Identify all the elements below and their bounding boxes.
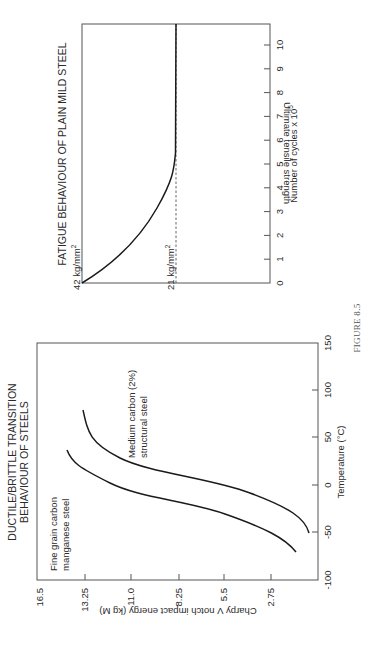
svg-text:4: 4	[274, 185, 285, 190]
y-tick-5-5: 5.5	[218, 588, 229, 601]
x-tick-neg100: -100	[322, 570, 333, 589]
y-tick-13-25: 13.25	[79, 588, 90, 612]
svg-text:structural steel: structural steel	[138, 396, 149, 458]
y-tick-16-5: 16.5	[34, 588, 45, 607]
svg-text:0: 0	[274, 280, 285, 285]
x-tick-0: 0	[322, 482, 333, 487]
svg-text:10: 10	[274, 40, 285, 51]
series-label-fine-grain: Fine grain carbon manganese steel	[48, 497, 71, 571]
x-axis-label: Temperature (°C)	[335, 426, 346, 499]
series-label-medium-carbon: Medium carbon (2%) structural steel	[126, 370, 149, 458]
x-axis-tick-labels: 0 1 2 3 4 5 6 7 8 9 10	[274, 40, 285, 286]
svg-text:2: 2	[274, 233, 285, 238]
annotation-42: 42 kg/mm2	[70, 244, 82, 290]
fatigue-curve	[82, 24, 176, 283]
y-tick-8-25: 8.25	[173, 588, 184, 607]
x-axis-ticks	[312, 390, 318, 532]
x-tick-50: 50	[322, 432, 333, 443]
svg-text:manganese steel: manganese steel	[60, 499, 71, 571]
svg-text:9: 9	[274, 66, 285, 71]
x-axis-ticks	[264, 45, 270, 259]
svg-text:Medium carbon (2%): Medium carbon (2%)	[126, 370, 137, 458]
chart-title: FATIGUE BEHAVIOUR OF PLAIN MILD STEEL	[56, 42, 68, 265]
x-axis-tick-labels: -100 -50 0 50 100 150	[322, 335, 333, 589]
fatigue-chart: FATIGUE BEHAVIOUR OF PLAIN MILD STEEL 42…	[56, 24, 299, 290]
figure-caption: FIGURE 8.5	[352, 303, 362, 352]
figure-canvas: DUCTILE/BRITTLE TRANSITION BEHAVIOUR OF …	[0, 0, 372, 648]
chart-title-line-1: DUCTILE/BRITTLE TRANSITION	[6, 383, 18, 540]
chart-title-line-2: BEHAVIOUR OF STEELS	[18, 401, 30, 523]
medium-carbon-curve	[83, 410, 309, 533]
svg-text:6: 6	[274, 138, 285, 143]
svg-text:1: 1	[274, 257, 285, 262]
svg-text:3: 3	[274, 209, 285, 214]
y-tick-2-75: 2.75	[265, 588, 276, 607]
y-axis-label: Charpy V notch impact energy (kg M)	[99, 606, 256, 617]
y-tick-11-0: 11.0	[125, 588, 136, 606]
rotated-figure: DUCTILE/BRITTLE TRANSITION BEHAVIOUR OF …	[6, 24, 362, 617]
svg-text:Fine grain carbon: Fine grain carbon	[48, 497, 59, 571]
x-axis-label: Number of cycles x 105	[287, 105, 299, 203]
svg-text:8: 8	[274, 90, 285, 95]
ductile-brittle-chart: DUCTILE/BRITTLE TRANSITION BEHAVIOUR OF …	[6, 335, 346, 617]
plot-frame	[37, 343, 318, 580]
svg-text:5: 5	[274, 161, 285, 166]
svg-text:7: 7	[274, 114, 285, 119]
x-tick-150: 150	[322, 335, 333, 351]
y-axis-ticks	[85, 574, 271, 580]
annotation-21: 21 kg/mm2	[164, 244, 176, 290]
fine-grain-curve	[67, 450, 296, 552]
x-tick-100: 100	[322, 382, 333, 398]
x-tick-neg50: -50	[322, 525, 333, 539]
svg-text:42 kg/mm2: 42 kg/mm2	[70, 244, 82, 290]
svg-text:21 kg/mm2: 21 kg/mm2	[164, 244, 176, 290]
